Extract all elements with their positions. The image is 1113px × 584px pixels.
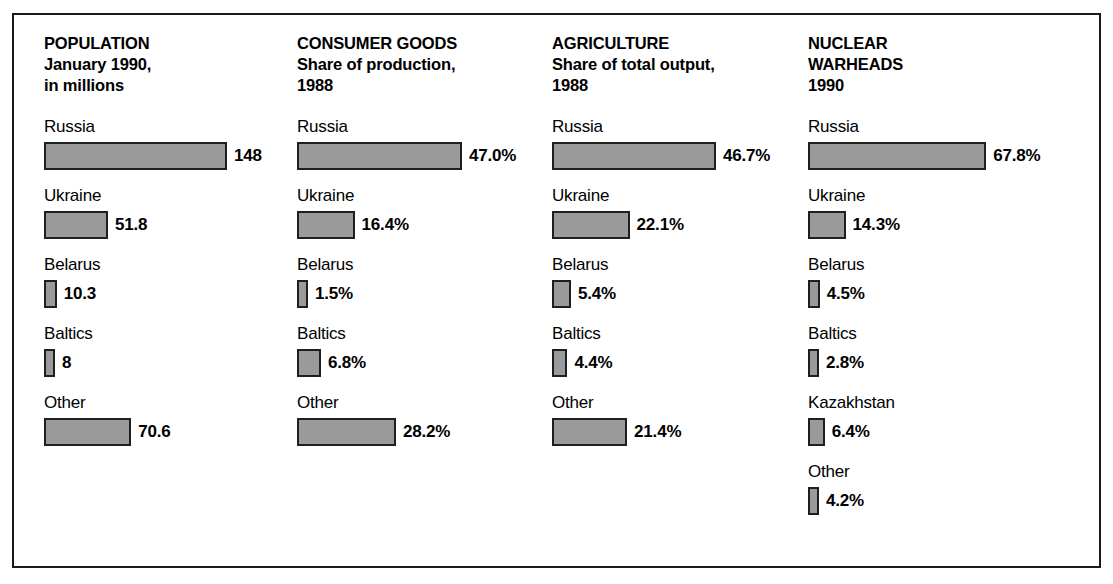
- bar-value-label: 51.8: [115, 215, 147, 235]
- bar-row: Baltics4.4%: [552, 324, 782, 378]
- bar-line: 8: [44, 348, 270, 378]
- bar-category-label: Baltics: [44, 324, 270, 344]
- bar-line: 6.8%: [297, 348, 526, 378]
- bar-line: 46.7%: [552, 141, 782, 171]
- bar-row: Other28.2%: [297, 393, 526, 447]
- bar-row: Belarus10.3: [44, 255, 270, 309]
- bar-line: 14.3%: [808, 210, 1082, 240]
- bar-line: 4.2%: [808, 486, 1082, 516]
- bar: [552, 418, 627, 446]
- bar-category-label: Belarus: [297, 255, 526, 275]
- bar-category-label: Baltics: [297, 324, 526, 344]
- bar: [44, 418, 131, 446]
- bar-category-label: Other: [44, 393, 270, 413]
- bar: [808, 418, 825, 446]
- bar: [552, 142, 716, 170]
- bar: [552, 349, 567, 377]
- bar-value-label: 14.3%: [853, 215, 900, 235]
- bar: [44, 211, 108, 239]
- bar: [297, 211, 355, 239]
- bar-category-label: Russia: [44, 117, 270, 137]
- bar-row: Russia46.7%: [552, 117, 782, 171]
- chart-panel-agriculture: AGRICULTURE Share of total output, 1988R…: [526, 15, 782, 566]
- bar: [808, 487, 819, 515]
- bar-line: 10.3: [44, 279, 270, 309]
- panel-header-agriculture: AGRICULTURE Share of total output, 1988: [552, 33, 782, 96]
- bar-line: 67.8%: [808, 141, 1082, 171]
- bar-value-label: 4.5%: [827, 284, 865, 304]
- bar-category-label: Baltics: [552, 324, 782, 344]
- bar: [297, 142, 462, 170]
- bar-row: Belarus4.5%: [808, 255, 1082, 309]
- bar-value-label: 70.6: [138, 422, 170, 442]
- bar-row: Russia67.8%: [808, 117, 1082, 171]
- bar-row: Belarus1.5%: [297, 255, 526, 309]
- bar-value-label: 6.8%: [328, 353, 366, 373]
- bar-value-label: 67.8%: [993, 146, 1040, 166]
- bar: [552, 280, 571, 308]
- bar-category-label: Ukraine: [808, 186, 1082, 206]
- bar: [552, 211, 630, 239]
- bar-value-label: 8: [62, 353, 71, 373]
- bar-row: Russia148: [44, 117, 270, 171]
- bar: [297, 280, 308, 308]
- bar-row: Other70.6: [44, 393, 270, 447]
- bar-category-label: Baltics: [808, 324, 1082, 344]
- bar-category-label: Ukraine: [44, 186, 270, 206]
- bar-value-label: 1.5%: [315, 284, 353, 304]
- bar-line: 21.4%: [552, 417, 782, 447]
- bar-row: Other4.2%: [808, 462, 1082, 516]
- panel-header-nuclear-warheads: NUCLEAR WARHEADS 1990: [808, 33, 1082, 96]
- bar-line: 148: [44, 141, 270, 171]
- bar-line: 2.8%: [808, 348, 1082, 378]
- bar-category-label: Russia: [552, 117, 782, 137]
- bar-line: 70.6: [44, 417, 270, 447]
- bar-value-label: 4.4%: [574, 353, 612, 373]
- panel-header-consumer-goods: CONSUMER GOODS Share of production, 1988: [297, 33, 526, 96]
- bar-value-label: 2.8%: [826, 353, 864, 373]
- bar: [808, 349, 819, 377]
- bar-row: Ukraine16.4%: [297, 186, 526, 240]
- bar-line: 5.4%: [552, 279, 782, 309]
- bar-value-label: 47.0%: [469, 146, 516, 166]
- bar-line: 28.2%: [297, 417, 526, 447]
- bar: [297, 418, 396, 446]
- bar-row: Baltics8: [44, 324, 270, 378]
- bar-row: Other21.4%: [552, 393, 782, 447]
- bar-value-label: 46.7%: [723, 146, 770, 166]
- bar-category-label: Russia: [808, 117, 1082, 137]
- bar-line: 16.4%: [297, 210, 526, 240]
- bar-row: Kazakhstan6.4%: [808, 393, 1082, 447]
- bar-category-label: Other: [808, 462, 1082, 482]
- bar-line: 6.4%: [808, 417, 1082, 447]
- bar-line: 51.8: [44, 210, 270, 240]
- bar-line: 22.1%: [552, 210, 782, 240]
- bar-category-label: Belarus: [44, 255, 270, 275]
- bar-row: Ukraine22.1%: [552, 186, 782, 240]
- bar-row: Ukraine51.8: [44, 186, 270, 240]
- bar-row: Ukraine14.3%: [808, 186, 1082, 240]
- bar-value-label: 4.2%: [826, 491, 864, 511]
- bar-category-label: Other: [552, 393, 782, 413]
- bar-row: Baltics2.8%: [808, 324, 1082, 378]
- bar: [808, 211, 846, 239]
- chart-panel-consumer-goods: CONSUMER GOODS Share of production, 1988…: [270, 15, 526, 566]
- chart-panel-population: POPULATION January 1990, in millionsRuss…: [14, 15, 270, 566]
- bar: [808, 142, 986, 170]
- bar-value-label: 22.1%: [637, 215, 684, 235]
- bar-row: Belarus5.4%: [552, 255, 782, 309]
- bar-category-label: Other: [297, 393, 526, 413]
- bar-line: 1.5%: [297, 279, 526, 309]
- bar-category-label: Belarus: [552, 255, 782, 275]
- bar-line: 4.5%: [808, 279, 1082, 309]
- bar-value-label: 6.4%: [832, 422, 870, 442]
- bar-category-label: Russia: [297, 117, 526, 137]
- chart-panel-nuclear-warheads: NUCLEAR WARHEADS 1990Russia67.8%Ukraine1…: [782, 15, 1082, 566]
- bar: [44, 280, 57, 308]
- bar-category-label: Kazakhstan: [808, 393, 1082, 413]
- bar-value-label: 16.4%: [362, 215, 409, 235]
- bar-row: Baltics6.8%: [297, 324, 526, 378]
- bar-value-label: 28.2%: [403, 422, 450, 442]
- bar-value-label: 10.3: [64, 284, 96, 304]
- panel-header-population: POPULATION January 1990, in millions: [44, 33, 270, 96]
